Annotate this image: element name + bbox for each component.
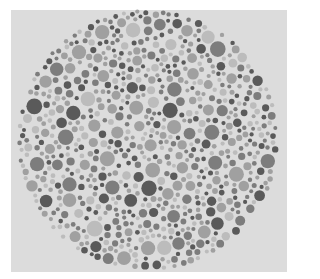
dot [78, 84, 85, 91]
dot [237, 53, 247, 63]
dot [94, 254, 100, 260]
dot [157, 177, 165, 185]
dot [65, 45, 70, 50]
dot [198, 129, 203, 134]
dot [112, 218, 119, 225]
dot [153, 42, 160, 49]
dot [51, 51, 55, 55]
dot [239, 181, 250, 192]
dot [55, 183, 61, 189]
dot [66, 90, 74, 98]
dot [134, 172, 144, 182]
dot [181, 219, 187, 225]
dot [122, 216, 126, 220]
dot [126, 148, 130, 152]
dot [37, 116, 43, 122]
dot [157, 78, 161, 82]
dot [265, 186, 270, 191]
dot [262, 115, 267, 120]
dot [112, 49, 116, 53]
dot [149, 134, 153, 138]
dot [22, 128, 26, 132]
dot [88, 151, 94, 157]
dot [171, 256, 178, 263]
dot [39, 140, 44, 145]
dot [273, 126, 277, 130]
dot [100, 140, 107, 147]
dot [98, 41, 103, 46]
dot [176, 97, 185, 106]
dot [233, 196, 237, 200]
dot [220, 83, 225, 88]
dot [147, 86, 155, 94]
dot [100, 183, 104, 187]
dot [229, 160, 235, 166]
dot [119, 148, 123, 152]
dot [123, 221, 128, 226]
dot [164, 139, 169, 144]
dot [103, 118, 108, 123]
dot [191, 239, 195, 243]
dot [201, 196, 205, 200]
dot [49, 217, 53, 221]
dot [178, 35, 183, 40]
dot [169, 52, 173, 56]
dot [139, 85, 146, 92]
dot [196, 44, 206, 54]
dot [272, 146, 278, 152]
dot [233, 113, 237, 117]
dot [257, 127, 261, 131]
dot [126, 23, 141, 38]
dot [182, 118, 186, 122]
dot [250, 132, 254, 136]
dot [166, 260, 170, 264]
dot [159, 140, 163, 144]
dot [193, 34, 197, 38]
dot [257, 168, 264, 175]
dot [24, 138, 29, 143]
dot [252, 141, 257, 146]
dot [188, 41, 193, 46]
dot [47, 160, 52, 165]
dot [88, 108, 93, 113]
dot [64, 81, 72, 89]
dot [119, 180, 123, 184]
dot [44, 113, 48, 117]
dot [241, 109, 248, 116]
dot [65, 223, 70, 228]
dot [233, 150, 238, 155]
dot [210, 41, 226, 57]
dot [167, 210, 180, 223]
dot [46, 58, 52, 64]
dot [51, 154, 55, 158]
dot [245, 195, 249, 199]
dot [135, 10, 139, 14]
dot [133, 183, 138, 188]
dot [126, 129, 131, 134]
dot [236, 135, 242, 141]
dot [116, 72, 120, 76]
dot [76, 246, 80, 250]
dot [126, 58, 130, 62]
dot [209, 95, 215, 101]
dot [94, 149, 99, 154]
dot [62, 177, 76, 191]
dot [107, 90, 111, 94]
dot [250, 102, 257, 109]
dot [166, 64, 171, 69]
dot [254, 190, 265, 201]
dot [121, 76, 125, 80]
dot [96, 97, 101, 102]
dot [140, 151, 144, 155]
dot [107, 146, 111, 150]
dot [204, 191, 208, 195]
dot [189, 142, 193, 146]
dot [141, 181, 156, 196]
dot [115, 213, 119, 217]
dot [90, 47, 96, 53]
dot [129, 249, 133, 253]
dot [108, 139, 113, 144]
dot [216, 240, 224, 248]
dot [254, 109, 260, 115]
dot [153, 224, 159, 230]
